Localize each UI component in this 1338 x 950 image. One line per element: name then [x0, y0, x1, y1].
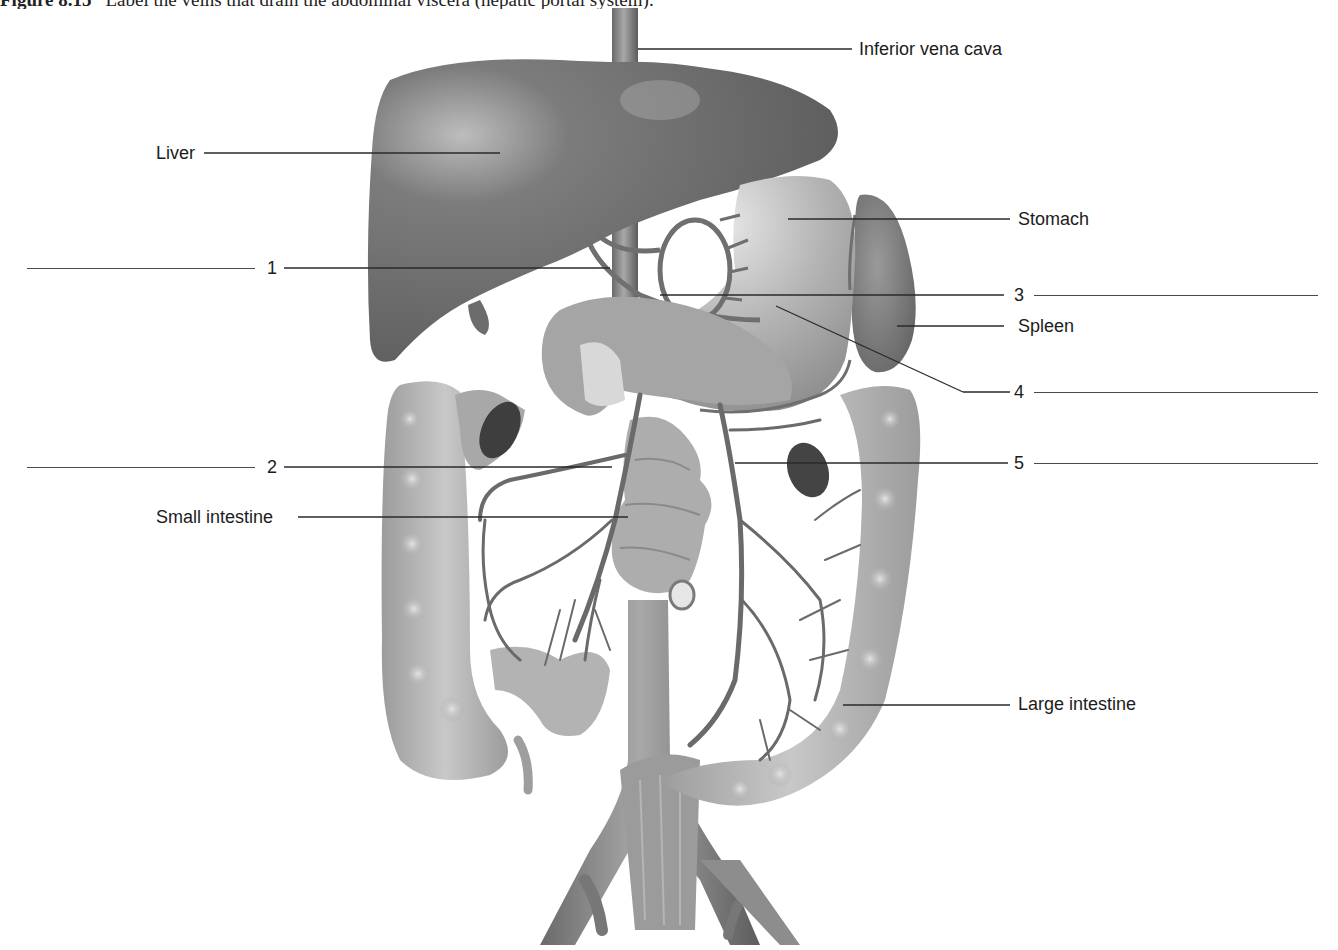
small-intestine: [612, 417, 712, 609]
answer-line-5[interactable]: [1034, 463, 1318, 464]
label-stomach: Stomach: [1018, 209, 1089, 229]
label-liver: Liver: [156, 143, 195, 163]
blank-number-3: 3: [1014, 285, 1024, 305]
answer-line-4[interactable]: [1034, 392, 1318, 393]
blank-number-2: 2: [267, 457, 277, 477]
blank-number-5: 5: [1014, 453, 1024, 473]
answer-line-1[interactable]: [27, 268, 255, 269]
answer-line-2[interactable]: [27, 467, 255, 468]
hepatic-portal-illustration: [0, 0, 1338, 950]
answer-line-3[interactable]: [1034, 295, 1318, 296]
label-small-intestine: Small intestine: [156, 507, 273, 527]
blank-number-1: 1: [267, 258, 277, 278]
label-large-intestine: Large intestine: [1018, 694, 1136, 714]
label-spleen: Spleen: [1018, 316, 1074, 336]
blank-number-4: 4: [1014, 382, 1024, 402]
label-inferior-vena-cava: Inferior vena cava: [859, 39, 1002, 59]
